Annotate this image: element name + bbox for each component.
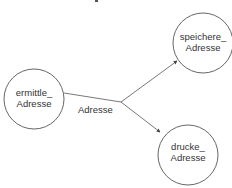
edge-ermittle-to-branch <box>64 93 121 102</box>
diagram-canvas: Adresse ermittle_ Adresse speichere_ Adr… <box>0 0 232 188</box>
node-label-line1: speichere_ <box>180 31 227 42</box>
node-drucke-adresse[interactable]: drucke_ Adresse <box>158 125 218 185</box>
title-fragment <box>95 0 98 2</box>
node-label-line2: Adresse <box>171 152 206 163</box>
edge-label-adresse: Adresse <box>78 104 113 115</box>
node-ermittle-adresse[interactable]: ermittle_ Adresse <box>4 69 64 129</box>
node-speichere-adresse[interactable]: speichere_ Adresse <box>173 13 232 73</box>
edges <box>64 61 177 132</box>
node-label-line1: ermittle_ <box>16 87 53 98</box>
node-label-line2: Adresse <box>186 42 221 53</box>
edge-branch-to-drucke <box>121 102 160 132</box>
node-label-line2: Adresse <box>17 98 52 109</box>
node-label-line1: drucke_ <box>171 141 206 152</box>
edge-branch-to-speichere <box>121 61 177 102</box>
